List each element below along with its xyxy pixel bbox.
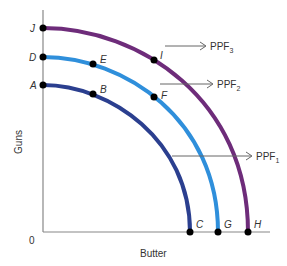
label-h: H (254, 219, 262, 230)
label-e: E (100, 54, 107, 65)
label-d: D (29, 52, 36, 63)
point-b (90, 91, 97, 98)
label-i: I (160, 50, 163, 61)
label-j: J (29, 23, 36, 34)
point-f (151, 94, 158, 101)
x-axis-label: Butter (140, 248, 167, 259)
point-a (40, 82, 47, 89)
point-e (90, 61, 97, 68)
label-b: B (100, 84, 107, 95)
point-d (40, 54, 47, 61)
origin-label: 0 (29, 235, 35, 246)
point-j (40, 25, 47, 32)
ppf2-label: PPF2 (217, 79, 240, 92)
label-g: G (224, 219, 232, 230)
point-c (187, 229, 194, 236)
label-c: C (196, 219, 204, 230)
point-g (215, 229, 222, 236)
point-h (245, 229, 252, 236)
ppf1-label: PPF1 (256, 151, 279, 164)
ppf-diagram: PPF3 PPF2 PPF1 J D A E B I F C G H 0 But… (0, 0, 287, 266)
ppf3-label: PPF3 (210, 41, 233, 54)
y-axis-label: Guns (13, 130, 24, 154)
ppf2-curve (43, 57, 218, 232)
ppf3-arrow (165, 42, 206, 50)
label-a: A (29, 80, 37, 91)
point-i (151, 57, 158, 64)
ppf1-arrow (172, 152, 252, 160)
label-f: F (161, 90, 168, 101)
